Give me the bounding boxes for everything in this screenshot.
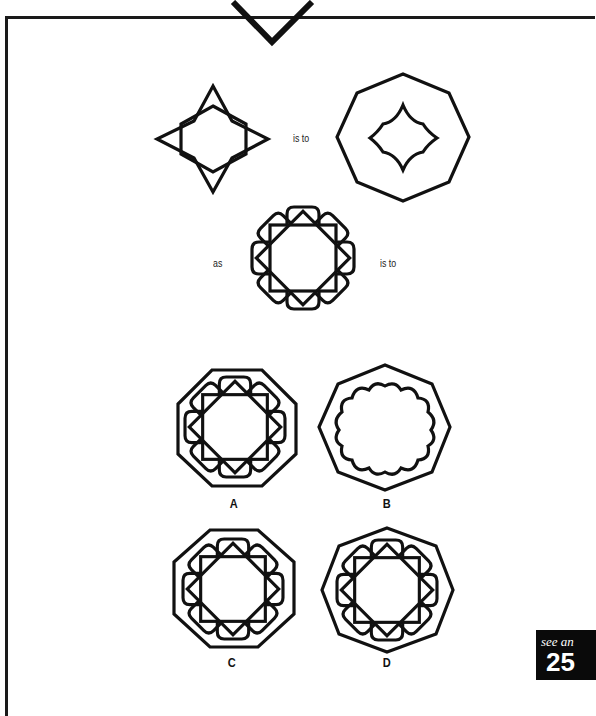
figure-octagon-with-curved-star (337, 74, 469, 201)
answer-reference-box: see an 25 (536, 630, 596, 680)
chevron-down-icon (233, 2, 312, 42)
option-d-label[interactable]: D (383, 655, 391, 670)
option-b-label[interactable]: B (383, 496, 391, 511)
option-b-figure (319, 365, 450, 490)
option-a-label[interactable]: A (230, 496, 238, 511)
as-label: as (213, 257, 222, 269)
answer-page-number: 25 (546, 647, 575, 678)
figure-star-with-diamond (157, 86, 268, 192)
figure-flower (252, 207, 354, 309)
option-a-figure (178, 370, 296, 486)
is-to-label-2: is to (380, 257, 396, 269)
is-to-label-1: is to (293, 132, 309, 144)
option-d-figure (322, 528, 453, 652)
option-c-figure (174, 530, 294, 647)
option-c-label[interactable]: C (228, 655, 236, 670)
